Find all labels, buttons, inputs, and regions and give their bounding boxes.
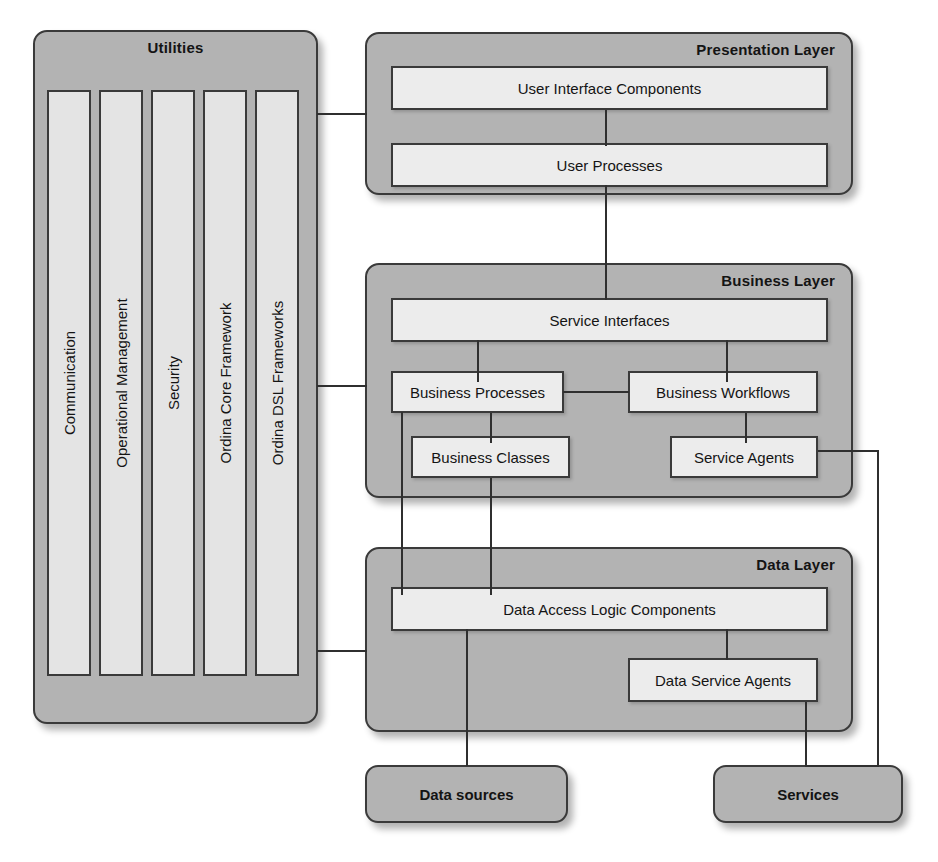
node-user-interface-components[interactable]: User Interface Components	[391, 66, 828, 110]
data-layer: Data Layer	[365, 547, 853, 732]
connector-businessprocesses-businessworkflows	[563, 391, 629, 393]
utilities-column-label: Ordina DSL Frameworks	[269, 301, 286, 466]
connector-rail-services	[805, 765, 879, 767]
connector-dataserviceagents-services	[805, 702, 807, 766]
utilities-column-security[interactable]: Security	[151, 90, 195, 676]
utilities-column-operational-management[interactable]: Operational Management	[99, 90, 143, 676]
node-label: Business Workflows	[656, 384, 790, 401]
node-label: Service Interfaces	[549, 312, 669, 329]
node-data-sources[interactable]: Data sources	[365, 765, 568, 823]
node-label: User Processes	[557, 157, 663, 174]
connector-dataaccess-dataserviceagents	[726, 629, 728, 660]
utilities-title: Utilities	[35, 39, 316, 56]
node-data-service-agents[interactable]: Data Service Agents	[628, 658, 818, 702]
presentation-layer-title: Presentation Layer	[696, 41, 835, 58]
connector-uicomponents-userprocesses	[605, 110, 607, 146]
node-label: Service Agents	[694, 449, 794, 466]
data-layer-title: Data Layer	[756, 556, 835, 573]
connector-serviceagents-rail	[818, 450, 879, 452]
utilities-column-label: Security	[165, 356, 182, 410]
connector-utilities-data	[317, 650, 367, 652]
node-label: Business Processes	[410, 384, 545, 401]
connector-businessprocesses-dataaccess	[401, 412, 403, 595]
connector-serviceinterfaces-businessworkflows-down	[726, 340, 728, 382]
node-label: Services	[777, 786, 839, 803]
connector-serviceinterfaces-businessprocesses-down	[477, 340, 479, 382]
utilities-column-communication[interactable]: Communication	[47, 90, 91, 676]
connector-businessworkflows-serviceagents	[745, 413, 747, 443]
node-label: Data Service Agents	[655, 672, 791, 689]
business-layer-title: Business Layer	[721, 272, 835, 289]
node-business-workflows[interactable]: Business Workflows	[628, 371, 818, 413]
node-label: Business Classes	[431, 449, 549, 466]
utilities-column-label: Operational Management	[113, 298, 130, 467]
node-services[interactable]: Services	[713, 765, 903, 823]
connector-dataaccess-datasources	[466, 629, 468, 766]
connector-utilities-business	[317, 385, 367, 387]
utilities-column-label: Ordina Core Framework	[217, 303, 234, 464]
utilities-column-label: Communication	[61, 331, 78, 435]
node-data-access-logic-components[interactable]: Data Access Logic Components	[391, 587, 828, 631]
architecture-diagram: Utilities Communication Operational Mana…	[0, 0, 938, 862]
connector-businessclasses-dataaccess	[490, 478, 492, 595]
node-user-processes[interactable]: User Processes	[391, 143, 828, 187]
node-label: User Interface Components	[518, 80, 701, 97]
node-service-interfaces[interactable]: Service Interfaces	[391, 298, 828, 342]
connector-rail-vertical	[877, 450, 879, 766]
utilities-column-ordina-core-framework[interactable]: Ordina Core Framework	[203, 90, 247, 676]
utilities-panel: Utilities Communication Operational Mana…	[33, 30, 318, 724]
connector-businessprocesses-businessclasses	[490, 413, 492, 443]
utilities-column-ordina-dsl-frameworks[interactable]: Ordina DSL Frameworks	[255, 90, 299, 676]
connector-userprocesses-serviceinterfaces	[605, 185, 607, 300]
node-label: Data Access Logic Components	[503, 601, 716, 618]
connector-utilities-presentation	[317, 113, 367, 115]
node-label: Data sources	[419, 786, 513, 803]
node-service-agents[interactable]: Service Agents	[670, 436, 818, 478]
